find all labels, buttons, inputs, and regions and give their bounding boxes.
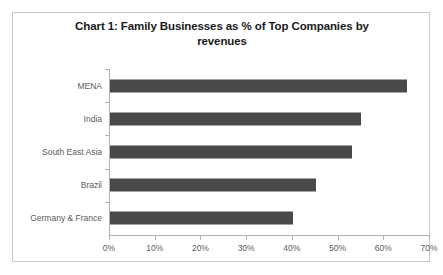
y-axis-tick (105, 102, 109, 103)
x-axis-tick (246, 236, 247, 240)
bar (110, 179, 316, 192)
category-label: Brazil (81, 180, 102, 190)
x-axis-tick-label: 40% (283, 243, 300, 253)
y-axis-tick (105, 69, 109, 70)
x-axis-tick-label: 10% (146, 243, 163, 253)
x-axis-tick-label: 60% (375, 243, 392, 253)
x-axis-tick-label: 20% (192, 243, 209, 253)
x-axis-tick-label: 50% (329, 243, 346, 253)
x-axis-tick (200, 236, 201, 240)
category-label: MENA (77, 81, 102, 91)
bar (110, 112, 361, 125)
x-axis-tick-label: 70% (420, 243, 437, 253)
x-axis-line (109, 235, 430, 236)
bar (110, 79, 407, 92)
x-axis-tick (292, 236, 293, 240)
y-axis-tick (105, 202, 109, 203)
chart-title-line-1: Chart 1: Family Businesses as % of Top C… (43, 19, 401, 34)
x-axis-tick (155, 236, 156, 240)
x-axis-tick (109, 236, 110, 240)
x-axis-tick (429, 236, 430, 240)
y-axis-tick (105, 135, 109, 136)
category-label: India (84, 114, 102, 124)
category-label: South East Asia (42, 147, 102, 157)
x-axis-tick (338, 236, 339, 240)
bar (110, 146, 352, 159)
bar (110, 212, 293, 225)
x-axis-tick (383, 236, 384, 240)
chart-frame: Chart 1: Family Businesses as % of Top C… (12, 12, 430, 262)
chart-title: Chart 1: Family Businesses as % of Top C… (43, 19, 401, 49)
chart-title-line-2: revenues (43, 34, 401, 49)
category-label: Germany & France (30, 213, 102, 223)
plot-area: MENAIndiaSouth East AsiaBrazilGermany & … (109, 69, 429, 235)
y-axis-tick (105, 169, 109, 170)
x-axis-tick-label: 30% (238, 243, 255, 253)
x-axis-tick-label: 0% (103, 243, 115, 253)
